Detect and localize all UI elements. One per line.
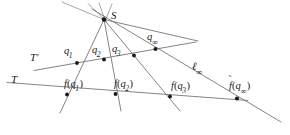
point-q-infinity xyxy=(154,47,158,51)
ray-S-through-q2 xyxy=(104,20,121,112)
tilde-icon: ˜ xyxy=(229,74,232,83)
f-q1-subscript: 1 xyxy=(75,84,79,93)
f-tilde-symbol: ˜f xyxy=(229,81,232,92)
point-f-q3 xyxy=(168,95,172,99)
paren-close: ) xyxy=(79,78,83,89)
label-q3: q3 xyxy=(112,44,121,57)
q3-subscript: 3 xyxy=(117,49,121,58)
point-q3 xyxy=(132,54,136,58)
point-q1 xyxy=(75,61,79,65)
q1-subscript: 1 xyxy=(69,51,73,60)
point-f-q1 xyxy=(65,93,69,97)
line-ell-infinity xyxy=(92,9,281,122)
paren-close: ) xyxy=(247,80,251,91)
ray-S-through-q1 xyxy=(60,20,104,114)
q2-subscript: 2 xyxy=(97,50,101,59)
q-infinity-subscript: ∞ xyxy=(152,38,158,47)
label-q-infinity: q∞ xyxy=(147,32,158,46)
f-q3-subscript: 3 xyxy=(182,86,186,95)
point-q2 xyxy=(102,58,106,62)
point-f-q2 xyxy=(114,92,118,96)
line-group xyxy=(7,2,281,122)
f-q-infinity-subscript: ∞ xyxy=(240,87,246,96)
point-S xyxy=(102,17,106,21)
label-q2: q2 xyxy=(92,45,101,58)
label-center-S: S xyxy=(111,10,117,21)
f-q2-subscript: 2 xyxy=(125,84,129,93)
label-f-q3: f(q3) xyxy=(171,81,190,94)
label-line-T: T xyxy=(11,74,17,85)
ell-infinity-subscript: ∞ xyxy=(196,67,202,77)
paren-close: ) xyxy=(186,80,190,91)
geometry-figure: S T′ T q1 q2 q3 q∞ ℓ∞ f(q1) f(q2) f(q3) … xyxy=(0,0,290,135)
ray-extra-up-left xyxy=(62,2,104,20)
prime-mark: ′ xyxy=(36,52,38,63)
label-ell-infinity: ℓ∞ xyxy=(192,61,203,75)
figure-canvas xyxy=(0,0,290,135)
label-f-q2: f(q2) xyxy=(114,79,133,92)
paren-close: ) xyxy=(129,78,133,89)
point-group xyxy=(65,17,239,100)
point-f-tilde-q-infinity xyxy=(235,96,239,100)
label-f-tilde-q-infinity: ˜f(q∞) xyxy=(229,81,250,95)
label-q1: q1 xyxy=(64,46,73,59)
label-line-T-prime: T′ xyxy=(30,52,38,63)
label-f-q1: f(q1) xyxy=(64,79,83,92)
